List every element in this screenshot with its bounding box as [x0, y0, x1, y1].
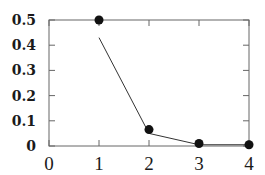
x-tick-label: 0 [44, 153, 54, 174]
x-tick-label: 3 [194, 153, 204, 174]
y-tick-label: 0.3 [12, 62, 36, 78]
y-tick-label: 0.1 [12, 113, 36, 129]
x-tick-label: 2 [144, 153, 154, 174]
y-tick-label: 0.5 [12, 12, 36, 28]
y-tick-label: 0 [26, 138, 36, 154]
y-tick-label: 0.2 [12, 88, 36, 104]
data-line [99, 38, 249, 145]
line-chart: 00.10.20.30.40.5 01234 [0, 0, 265, 175]
x-axis: 01234 [44, 20, 254, 174]
y-tick-label: 0.4 [12, 37, 37, 53]
data-point [195, 139, 204, 148]
data-point [245, 140, 254, 149]
data-point [145, 125, 154, 134]
x-tick-label: 4 [244, 153, 254, 174]
data-markers [95, 16, 254, 150]
y-axis: 00.10.20.30.40.5 [12, 12, 249, 154]
data-point [95, 16, 104, 25]
x-tick-label: 1 [94, 153, 104, 174]
